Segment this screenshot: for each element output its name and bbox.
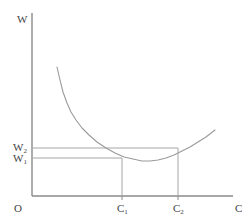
figure-canvas: W C O W2 W1 C1 C2 [0,0,252,224]
x-tick-label-c1: C1 [117,203,128,214]
y-axis-title: W [17,14,27,25]
x-tick-label-c2: C2 [173,203,184,214]
origin-label: O [14,203,22,214]
economics-curve-plot [0,0,252,224]
y-tick-label-w1: W1 [13,153,27,164]
x-axis-title: C [235,203,242,214]
cost-curve [57,67,215,161]
